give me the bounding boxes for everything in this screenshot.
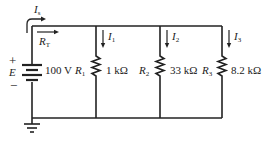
ground-icon <box>24 124 40 132</box>
source-name: E <box>9 67 16 78</box>
circuit-wiring <box>0 0 265 145</box>
r2-label: R2 <box>139 65 149 78</box>
current-subscript: s <box>38 9 41 17</box>
battery-symbol <box>22 65 42 80</box>
r3-value: 8.2 kΩ <box>231 65 261 76</box>
r2-symbol: R <box>139 64 146 76</box>
r2-value: 33 kΩ <box>170 65 197 76</box>
r2-subscript: 2 <box>146 70 150 78</box>
i1-subscript: 1 <box>112 36 116 44</box>
source-value: 100 V <box>45 65 72 76</box>
r3-subscript: 3 <box>209 70 213 78</box>
rt-symbol: R <box>39 35 46 47</box>
total-resistance-label: RT <box>39 36 50 49</box>
r3-symbol: R <box>202 64 209 76</box>
r1-label: R1 <box>75 65 85 78</box>
r3-label: R3 <box>202 65 212 78</box>
i2-subscript: 2 <box>176 36 180 44</box>
rt-subscript: T <box>46 41 50 49</box>
i3-subscript: 3 <box>238 36 242 44</box>
r1-symbol: R <box>75 64 82 76</box>
minus-sign: − <box>10 79 17 92</box>
r1-subscript: 1 <box>82 70 86 78</box>
source-current-label: Is <box>34 4 40 17</box>
i1-label: I1 <box>108 31 115 44</box>
r1-value: 1 kΩ <box>106 65 128 76</box>
i3-label: I3 <box>234 31 241 44</box>
i2-label: I2 <box>172 31 179 44</box>
